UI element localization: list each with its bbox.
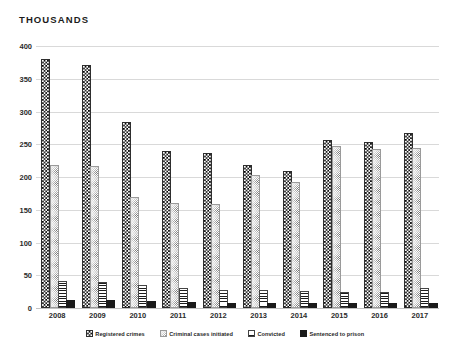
chart-legend: Registered crimesCriminal cases initiate… xyxy=(0,330,450,337)
gridline-0 xyxy=(36,308,439,309)
bar-group-2010 xyxy=(122,46,154,308)
bar xyxy=(227,303,236,308)
bar xyxy=(388,303,397,308)
x-tick-label-2014: 2014 xyxy=(291,311,308,320)
legend-label: Criminal cases initiated xyxy=(169,331,233,337)
legend-item-convicted[interactable]: Convicted xyxy=(248,330,285,337)
legend-swatch-icon xyxy=(160,330,167,337)
bar-group-2016 xyxy=(364,46,396,308)
bar-chart: THOUSANDS 050100150200250300350400 20082… xyxy=(0,0,450,347)
y-tick-label-50: 50 xyxy=(0,271,32,280)
x-tick-label-2017: 2017 xyxy=(412,311,429,320)
x-tick-label-2013: 2013 xyxy=(250,311,267,320)
legend-item-criminal-cases-initiated[interactable]: Criminal cases initiated xyxy=(160,330,233,337)
legend-label: Convicted xyxy=(257,331,285,337)
bar xyxy=(251,175,260,308)
y-tick-label-300: 300 xyxy=(0,107,32,116)
bar xyxy=(147,301,156,308)
bar xyxy=(429,303,438,308)
bar xyxy=(308,303,317,308)
bar-group-2014 xyxy=(283,46,315,308)
legend-swatch-icon xyxy=(86,330,93,337)
bar xyxy=(372,149,381,308)
bar xyxy=(291,182,300,308)
y-axis-labels: 050100150200250300350400 xyxy=(0,46,32,308)
x-tick-label-2010: 2010 xyxy=(129,311,146,320)
bar xyxy=(187,302,196,308)
legend-label: Sentenced to prison xyxy=(309,331,364,337)
y-tick-label-350: 350 xyxy=(0,74,32,83)
chart-unit-title: THOUSANDS xyxy=(19,14,89,25)
bar-group-2013 xyxy=(243,46,275,308)
x-tick-label-2009: 2009 xyxy=(89,311,106,320)
y-tick-label-250: 250 xyxy=(0,140,32,149)
bar-group-2008 xyxy=(41,46,73,308)
y-tick-label-100: 100 xyxy=(0,238,32,247)
bar-group-2011 xyxy=(162,46,194,308)
legend-item-sentenced-to-prison[interactable]: Sentenced to prison xyxy=(300,330,364,337)
bar xyxy=(412,148,421,308)
y-tick-label-0: 0 xyxy=(0,304,32,313)
bar-group-2015 xyxy=(323,46,355,308)
bar xyxy=(267,303,276,308)
legend-label: Registered crimes xyxy=(95,331,144,337)
x-axis-labels: 2008200920102011201220132014201520162017 xyxy=(36,311,439,325)
y-tick-label-150: 150 xyxy=(0,205,32,214)
x-tick-label-2015: 2015 xyxy=(331,311,348,320)
x-tick-label-2011: 2011 xyxy=(170,311,186,320)
y-tick-label-400: 400 xyxy=(0,42,32,51)
bar-group-2017 xyxy=(404,46,436,308)
bar xyxy=(106,300,115,308)
x-tick-label-2008: 2008 xyxy=(49,311,66,320)
x-tick-label-2012: 2012 xyxy=(210,311,227,320)
legend-swatch-icon xyxy=(248,330,255,337)
bar xyxy=(348,303,357,308)
bar-group-2012 xyxy=(203,46,235,308)
y-tick-label-200: 200 xyxy=(0,173,32,182)
bar xyxy=(66,300,75,308)
legend-swatch-icon xyxy=(300,330,307,337)
legend-item-registered-crimes[interactable]: Registered crimes xyxy=(86,330,145,337)
bar xyxy=(332,146,341,308)
bar-group-2009 xyxy=(82,46,114,308)
plot-area xyxy=(36,46,439,308)
x-tick-label-2016: 2016 xyxy=(371,311,388,320)
